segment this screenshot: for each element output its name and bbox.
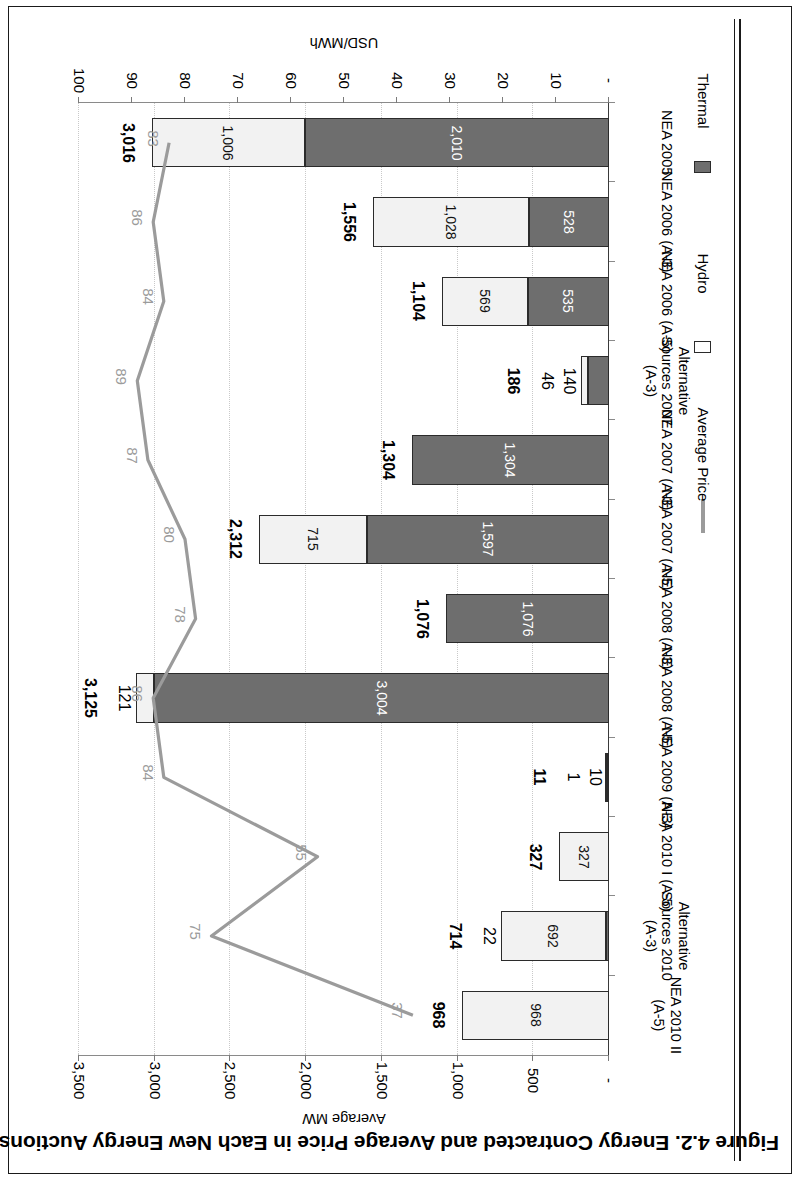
price-point-label: 89 (113, 358, 130, 394)
secondary-axis-tick-label: 100 (71, 59, 88, 103)
category-axis-tick (609, 737, 615, 738)
secondary-axis-tick (290, 97, 291, 103)
chart-area: Average MW USD/MWh 2,0101,0063,0165281,0… (19, 21, 729, 1101)
average-price-line (79, 103, 609, 1055)
secondary-axis-tick (555, 97, 556, 103)
price-point-label: 75 (187, 914, 204, 950)
title-divider-inner (734, 19, 735, 1161)
price-point-label: 37 (388, 993, 405, 1029)
secondary-axis-tick (184, 97, 185, 103)
category-axis-tick (609, 340, 615, 341)
price-point-label: 80 (161, 517, 178, 553)
price-point-label: 83 (145, 120, 162, 156)
secondary-axis-tick-label: 80 (177, 59, 194, 103)
value-axis-tick-label: 3,500 (71, 1059, 88, 1103)
price-point-label: 87 (123, 438, 140, 474)
secondary-axis-tick-label: 60 (283, 59, 300, 103)
secondary-axis-tick (78, 97, 79, 103)
category-axis-tick (609, 261, 615, 262)
value-axis-title: Average MW (284, 1111, 404, 1127)
value-axis-tick-label: 1,000 (449, 1059, 466, 1103)
figure-page: Figure 4.2. Energy Contracted and Averag… (0, 0, 802, 1184)
secondary-axis-tick-label: 90 (124, 59, 141, 103)
secondary-axis-tick-label: 10 (548, 59, 565, 103)
category-axis-tick (609, 181, 615, 182)
value-axis-tick-label: - (601, 1059, 618, 1103)
price-point-label: 84 (139, 755, 156, 791)
legend-item-label: Thermal (695, 74, 712, 204)
secondary-axis-tick-label: 40 (389, 59, 406, 103)
secondary-axis-tick-label: 20 (495, 59, 512, 103)
category-axis-tick (609, 499, 615, 500)
category-label: NEA 2010 II(A-5) (650, 941, 683, 1091)
legend-item-label: Hydro (695, 254, 712, 384)
value-axis-tick-label: 1,500 (373, 1059, 390, 1103)
figure-frame: Figure 4.2. Energy Contracted and Averag… (8, 6, 792, 1174)
secondary-axis-tick-label: - (601, 59, 618, 103)
secondary-axis-title: USD/MWh (284, 35, 404, 51)
secondary-axis-line (79, 102, 609, 103)
price-point-label: 55 (293, 834, 310, 870)
category-axis-tick (609, 578, 615, 579)
price-polyline (137, 143, 413, 1016)
price-point-label: 86 (129, 200, 146, 236)
category-axis-tick (609, 895, 615, 896)
category-axis-tick (609, 657, 615, 658)
secondary-axis-tick (502, 97, 503, 103)
rotated-figure-content: Figure 4.2. Energy Contracted and Averag… (9, 7, 793, 1173)
value-axis-tick-label: 2,500 (222, 1059, 239, 1103)
secondary-axis-tick (343, 97, 344, 103)
secondary-axis-tick (237, 97, 238, 103)
price-point-label: 84 (139, 279, 156, 315)
price-point-label: 86 (129, 676, 146, 712)
category-axis-tick (609, 816, 615, 817)
secondary-axis-tick-label: 30 (442, 59, 459, 103)
secondary-axis-tick (449, 97, 450, 103)
legend-item-label: Average Price (695, 408, 712, 538)
page-title: Figure 4.2. Energy Contracted and Averag… (79, 1131, 779, 1155)
secondary-axis-tick (131, 97, 132, 103)
value-axis-tick-label: 500 (525, 1059, 542, 1103)
secondary-axis-tick (396, 97, 397, 103)
secondary-axis-tick (608, 97, 609, 103)
value-axis-line (79, 1055, 609, 1056)
secondary-axis-tick-label: 70 (230, 59, 247, 103)
price-point-label: 78 (171, 596, 188, 632)
title-divider-outer (739, 19, 741, 1161)
plot-region: 2,0101,0063,0165281,0281,5565355691,1041… (79, 103, 609, 1055)
secondary-axis-tick-label: 50 (336, 59, 353, 103)
value-axis-tick-label: 2,000 (298, 1059, 315, 1103)
category-axis-tick (609, 419, 615, 420)
value-axis-tick-label: 3,000 (146, 1059, 163, 1103)
category-axis-tick (609, 975, 615, 976)
